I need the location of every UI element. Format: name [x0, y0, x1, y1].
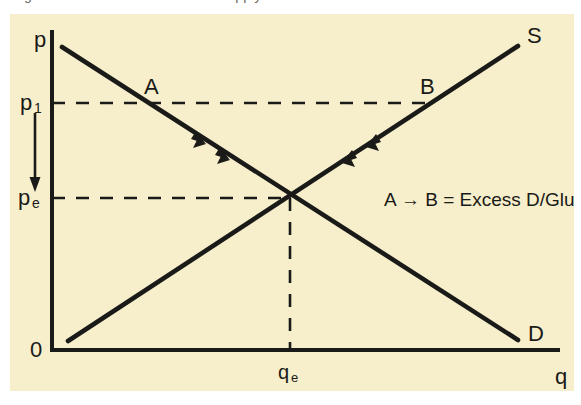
- y-tick-sub-p1: 1: [34, 100, 42, 116]
- supply-curve-label: S: [527, 23, 542, 48]
- x-axis-label: q: [555, 364, 567, 389]
- figure-root: Figure 3.6 Excess Demand and Supply: [0, 0, 581, 405]
- x-tick-label-qe: q e: [278, 361, 298, 385]
- figure-caption-strip: Figure 3.6 Excess Demand and Supply: [0, 0, 581, 14]
- x-tick-base-qe: q: [278, 361, 289, 383]
- point-label-b: B: [420, 74, 435, 99]
- supply-demand-chart: S D p q 0 p 1 p e q e A B: [10, 14, 574, 391]
- y-tick-sub-pe: e: [32, 195, 40, 211]
- chart-panel: S D p q 0 p 1 p e q e A B: [10, 14, 574, 391]
- y-tick-label-pe: p e: [18, 185, 40, 211]
- excess-demand-annotation: A → B = Excess D/Glut: [384, 189, 574, 210]
- y-tick-base-pe: p: [18, 185, 30, 210]
- x-tick-sub-qe: e: [291, 370, 298, 385]
- figure-caption: Figure 3.6 Excess Demand and Supply: [12, 0, 262, 3]
- y-axis-label: p: [34, 27, 46, 52]
- demand-curve-label: D: [528, 321, 544, 346]
- point-label-a: A: [144, 74, 159, 99]
- price-decrease-arrow-icon: [30, 113, 41, 192]
- y-tick-base-p1: p: [20, 90, 32, 115]
- y-tick-label-p1: p 1: [20, 90, 42, 116]
- origin-label: 0: [30, 337, 42, 362]
